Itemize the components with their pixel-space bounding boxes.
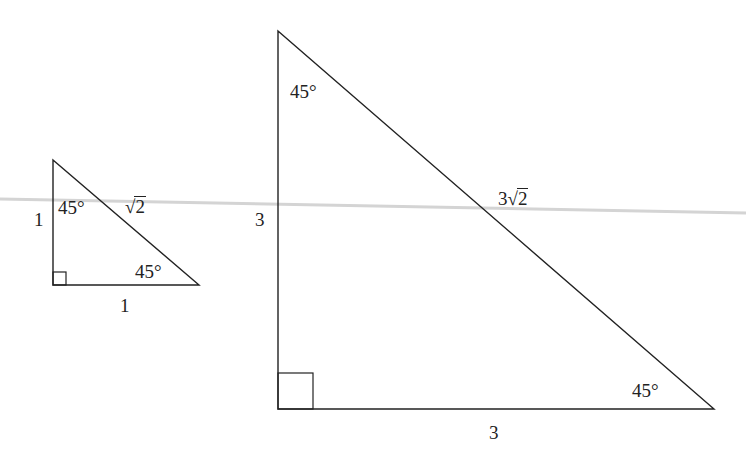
large-top-angle-label: 45° — [290, 82, 317, 101]
small-hypotenuse-radicand: 2 — [134, 196, 146, 216]
large-hypotenuse-radicand: 2 — [517, 188, 529, 208]
small-bottom-angle-label: 45° — [135, 262, 162, 281]
sqrt-symbol: √ — [508, 189, 518, 208]
small-hypotenuse-label: √2 — [125, 196, 146, 216]
large-hypotenuse-coefficient: 3 — [498, 188, 508, 209]
small-horizontal-leg-label: 1 — [120, 296, 130, 315]
large-horizontal-leg-label: 3 — [489, 423, 499, 442]
large-bottom-angle-label: 45° — [632, 381, 659, 400]
small-right-angle-marker — [53, 272, 66, 285]
small-vertical-leg-label: 1 — [34, 210, 44, 229]
sqrt-symbol: √ — [125, 197, 135, 216]
large-hypotenuse-label: 3√2 — [498, 188, 528, 208]
large-vertical-leg-label: 3 — [255, 210, 265, 229]
large-right-angle-marker — [278, 373, 313, 409]
small-triangle — [53, 160, 199, 285]
small-top-angle-label: 45° — [58, 198, 85, 217]
diagram-canvas: 1 1 45° 45° √2 3 3 45° 45° 3√2 — [0, 0, 746, 465]
large-triangle — [278, 31, 714, 409]
